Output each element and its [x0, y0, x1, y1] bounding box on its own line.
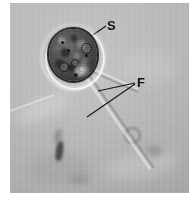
vesicle	[59, 62, 69, 72]
granule	[61, 41, 64, 44]
cell-body	[49, 29, 97, 81]
vesicle	[81, 43, 92, 54]
leader-line-f-upper	[98, 83, 135, 91]
label-s: S	[107, 19, 116, 32]
granule	[67, 49, 70, 52]
cytoplasm-texture	[49, 29, 97, 81]
label-f: F	[137, 76, 145, 89]
granule	[85, 54, 88, 57]
background-streak	[10, 95, 54, 111]
micrograph-figure: S F	[0, 0, 196, 206]
micrograph-plate: S F	[10, 3, 189, 193]
annotation-overlay	[10, 3, 189, 193]
cell-highlight	[75, 63, 89, 77]
